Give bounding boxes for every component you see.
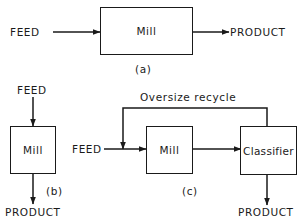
product-label-a: PRODUCT — [230, 27, 286, 38]
caption-c: (c) — [182, 186, 198, 197]
classifier-label: Classifier — [243, 145, 294, 157]
oversize-recycle-label: Oversize recycle — [140, 92, 236, 103]
mill-label-b: Mill — [23, 144, 43, 156]
mill-box-a: Mill — [100, 7, 193, 55]
mill-label-a: Mill — [136, 25, 156, 37]
caption-a: (a) — [135, 64, 151, 75]
feed-label-a: FEED — [10, 27, 40, 38]
classifier-box: Classifier — [240, 126, 297, 175]
feed-label-c: FEED — [72, 144, 102, 155]
product-label-b: PRODUCT — [5, 207, 61, 218]
mill-circuit-diagram: FEED Mill PRODUCT (a) FEED Mill (b) PROD… — [0, 0, 308, 223]
product-label-c: PRODUCT — [238, 207, 294, 218]
feed-label-b: FEED — [17, 85, 47, 96]
mill-box-b: Mill — [10, 126, 56, 174]
caption-b: (b) — [46, 186, 63, 197]
mill-box-c: Mill — [146, 126, 193, 174]
mill-label-c: Mill — [159, 144, 179, 156]
